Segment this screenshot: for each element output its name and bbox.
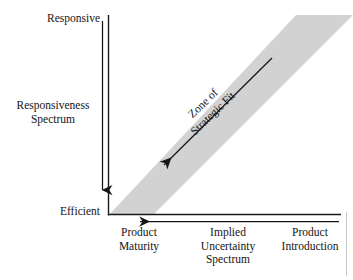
- strategic-fit-diagram: Responsive Responsiveness Spectrum Effic…: [0, 0, 353, 280]
- page-edge-artifact: [346, 212, 347, 276]
- axis-label-efficient: Efficient: [30, 205, 100, 219]
- axis-label-product-maturity: Product Maturity: [106, 226, 172, 253]
- axis-label-product-introduction: Product Introduction: [268, 226, 352, 253]
- axis-label-responsiveness-spectrum: Responsiveness Spectrum: [6, 99, 100, 126]
- axis-label-implied-uncertainty-spectrum: Implied Uncertainty Spectrum: [186, 226, 270, 267]
- axis-label-responsive: Responsive: [28, 12, 100, 26]
- zone-of-strategic-fit-band: [108, 15, 353, 240]
